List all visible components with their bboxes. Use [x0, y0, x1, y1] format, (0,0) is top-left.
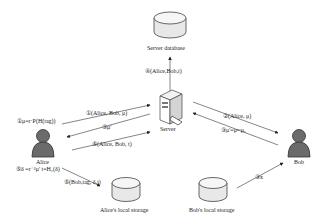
bob-local-storage	[197, 176, 229, 208]
server-database-label: Server database	[147, 45, 185, 52]
user-icon	[286, 128, 312, 158]
alice	[30, 128, 56, 162]
message-3b: ③μ'	[102, 124, 111, 131]
database-icon	[152, 10, 188, 40]
message-8: ③x	[255, 174, 263, 181]
database-icon	[110, 176, 142, 204]
alice-storage-label: Alice's local storage	[100, 207, 148, 214]
message-6: ⑤δ =r⁻¹μ' t=H₂(δ)	[16, 166, 60, 173]
bob-storage-label: Bob's local storage	[189, 207, 234, 214]
server-label: Server	[160, 126, 176, 133]
message-7: ⑤(Bob,tag, δ,t)	[64, 179, 101, 186]
message-4: ④(Alice,Bob,t)	[145, 68, 182, 75]
message-5: ⑤(Alice, Bob, t)	[92, 141, 132, 148]
server-icon	[156, 88, 186, 126]
server	[156, 88, 186, 130]
bob-label: Bob	[294, 159, 304, 166]
user-icon	[30, 128, 56, 158]
message-3: ③μ'=μˣ·μ₂	[221, 127, 246, 134]
database-icon	[197, 176, 229, 204]
message-1b: ①(Alice, Bob, μ)	[86, 110, 127, 117]
message-1: ①μ=r·P(H(tag))	[17, 118, 56, 125]
message-2: ②(Alice, μ)	[223, 113, 251, 120]
server-database	[152, 10, 188, 44]
alice-label: Alice	[36, 159, 49, 166]
alice-local-storage	[110, 176, 142, 208]
bob	[286, 128, 312, 162]
